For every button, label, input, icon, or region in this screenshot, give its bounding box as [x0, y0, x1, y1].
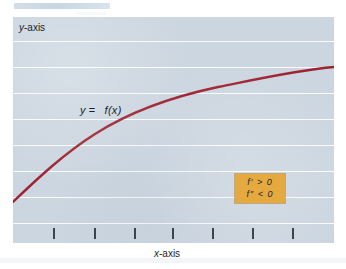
figure-container: y-axis y=f(x) x-axis f′ > 0 f″ < 0: [0, 0, 346, 269]
x-axis-tick: [292, 228, 294, 239]
page-top-rule: [14, 3, 110, 9]
curve-label-y: y: [80, 104, 86, 116]
x-axis-tick: [252, 228, 254, 239]
y-axis-label-text: -axis: [24, 22, 45, 33]
scan-speckle: [0, 258, 346, 263]
y-axis-label: y-axis: [19, 22, 45, 33]
second-derivative-condition: f″ < 0: [247, 189, 274, 200]
plot-panel: [13, 17, 334, 243]
x-axis-tick: [212, 228, 214, 239]
x-axis-tick: [172, 228, 174, 239]
curve-equation-label: y=f(x): [80, 104, 122, 116]
derivative-annotation-box: f′ > 0 f″ < 0: [235, 174, 285, 203]
x-axis-tick: [134, 228, 136, 239]
curve-label-equals: =: [89, 104, 96, 116]
x-axis-tick: [94, 228, 96, 239]
curve-svg: [13, 17, 334, 243]
curve-label-fx: f(x): [105, 104, 122, 116]
function-curve: [13, 67, 334, 202]
first-derivative-condition: f′ > 0: [247, 177, 272, 188]
scan-speckle: [76, 12, 106, 15]
x-axis-tick: [53, 228, 55, 239]
